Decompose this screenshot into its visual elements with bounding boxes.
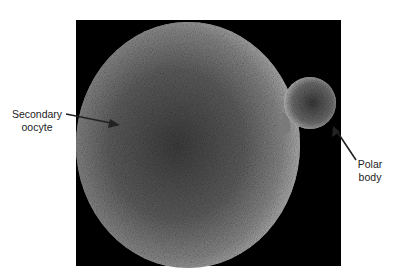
label-line: body xyxy=(350,171,390,184)
polar-body-pointer-arrow xyxy=(336,130,356,160)
polar-body-cell xyxy=(284,77,336,129)
label-line: Secondary xyxy=(4,108,70,121)
label-line: Polar xyxy=(350,158,390,171)
polar-body-label: Polar body xyxy=(350,158,390,184)
secondary-oocyte-cell xyxy=(76,22,300,268)
label-line: oocyte xyxy=(4,121,70,134)
secondary-oocyte-label: Secondary oocyte xyxy=(4,108,70,134)
micrograph-illustration xyxy=(0,0,402,277)
